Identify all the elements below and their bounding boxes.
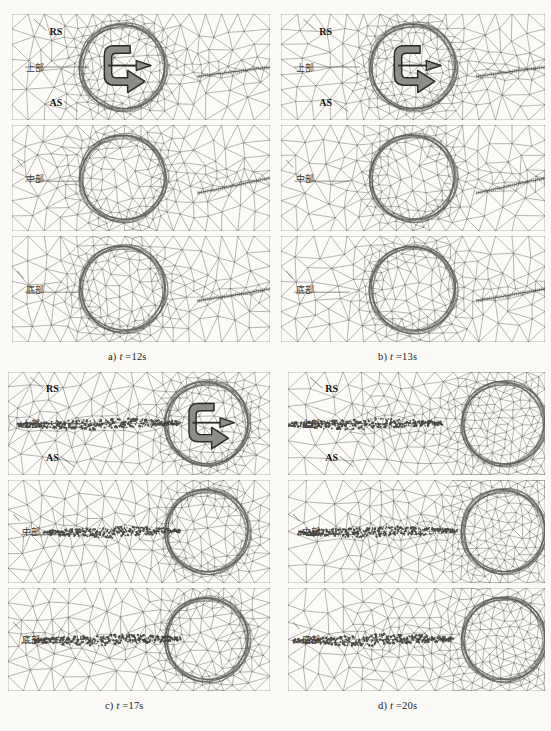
caption-panel-a: a) t =12s	[108, 351, 147, 362]
mesh-plot	[12, 125, 270, 231]
subpanel-b-bottom: 底部	[281, 236, 545, 342]
subpanel-a-upper: RS上部AS	[12, 14, 270, 120]
caption-panel-d: d) t =20s	[378, 700, 417, 711]
caption-c-prefix: c)	[105, 700, 114, 711]
subpanel-d-middle: 中部	[288, 480, 545, 583]
caption-panel-c: c) t =17s	[105, 700, 144, 711]
panel-c-t17s: RS上部AS 中部 底部	[8, 372, 270, 692]
panel-a-t12s: RS上部AS 中部 底部	[12, 14, 270, 342]
mesh-plot	[12, 14, 270, 120]
caption-b-prefix: b)	[378, 351, 387, 362]
mesh-plot	[281, 125, 545, 231]
caption-d-prefix: d)	[378, 700, 387, 711]
mesh-plot	[281, 14, 545, 120]
mesh-plot	[288, 372, 545, 475]
panel-b-t13s: RS上部AS 中部 底部	[281, 14, 545, 342]
subpanel-c-bottom: 底部	[8, 588, 270, 691]
caption-b-value: =13s	[393, 351, 417, 362]
mesh-plot	[288, 588, 545, 691]
figure-root: RS上部AS 中部 底部 RS上部AS 中部 底部 RS上部AS 中部 底部 R…	[0, 0, 551, 731]
subpanel-d-upper: RS上部AS	[288, 372, 545, 475]
caption-a-value: =12s	[123, 351, 147, 362]
mesh-plot	[8, 588, 270, 691]
subpanel-a-middle: 中部	[12, 125, 270, 231]
mesh-plot	[8, 372, 270, 475]
caption-panel-b: b) t =13s	[378, 351, 417, 362]
subpanel-b-upper: RS上部AS	[281, 14, 545, 120]
caption-c-value: =17s	[120, 700, 144, 711]
caption-a-prefix: a)	[108, 351, 117, 362]
mesh-plot	[12, 236, 270, 342]
subpanel-b-middle: 中部	[281, 125, 545, 231]
mesh-plot	[8, 480, 270, 583]
mesh-plot	[288, 480, 545, 583]
subpanel-d-bottom: 底部	[288, 588, 545, 691]
subpanel-c-middle: 中部	[8, 480, 270, 583]
subpanel-a-bottom: 底部	[12, 236, 270, 342]
mesh-plot	[281, 236, 545, 342]
caption-d-value: =20s	[393, 700, 417, 711]
subpanel-c-upper: RS上部AS	[8, 372, 270, 475]
panel-d-t20s: RS上部AS 中部 底部	[288, 372, 545, 692]
